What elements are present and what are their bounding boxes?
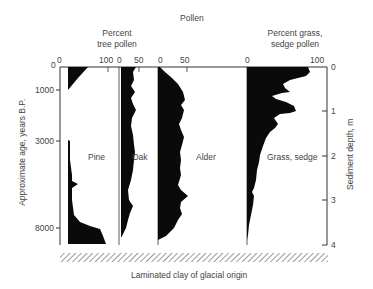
grass-sedge-label: Grass, sedge xyxy=(267,153,318,162)
alder-profile xyxy=(158,67,188,240)
pollen-diagram xyxy=(0,0,373,289)
alder-label: Alder xyxy=(196,153,216,162)
depth-axis xyxy=(322,67,327,245)
oak-label: Oak xyxy=(132,153,148,162)
pine-label: Pine xyxy=(88,153,105,162)
age-axis xyxy=(56,67,60,245)
glacial-clay-caption: Laminated clay of glacial origin xyxy=(131,271,247,280)
glacial-clay-hatch xyxy=(60,253,328,262)
